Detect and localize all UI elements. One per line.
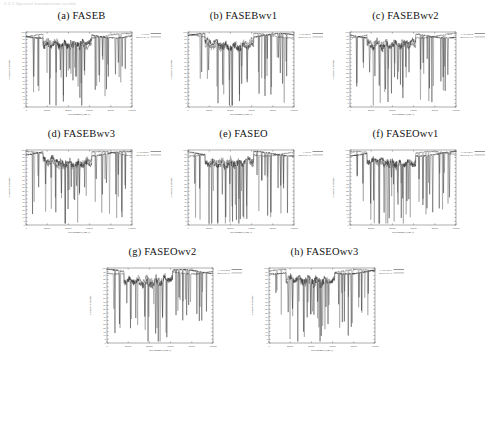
y-tick-label: 90 xyxy=(265,274,268,277)
x-tick-label: 100000 xyxy=(209,345,217,348)
y-tick-label: 80 xyxy=(346,46,349,49)
y-tick-label: 45 xyxy=(103,308,106,311)
x-tick-label: 60000 xyxy=(86,109,93,112)
y-tick-label: 55 xyxy=(265,301,268,304)
legend-label: MODTRAN xyxy=(298,154,311,157)
spectral-plot: 0510152025303540455055606570758085909510… xyxy=(326,141,486,246)
y-tick-label: 40 xyxy=(346,76,349,79)
y-tick-label: 50 xyxy=(184,186,187,189)
x-tick-label: 20000 xyxy=(44,109,51,112)
y-tick-label: 75 xyxy=(265,286,268,289)
y-tick-label: 95 xyxy=(346,35,349,38)
y-tick-label: 25 xyxy=(184,205,187,208)
y-tick-label: 20 xyxy=(184,209,187,212)
y-tick-label: 95 xyxy=(22,35,25,38)
x-tick-label: 100000 xyxy=(128,227,136,230)
x-tick-label: 40000 xyxy=(227,109,234,112)
y-tick-label: 90 xyxy=(346,156,349,159)
plot-container: 0510152025303540455055606570758085909510… xyxy=(245,259,405,364)
y-tick-label: 40 xyxy=(184,76,187,79)
y-tick-label: 50 xyxy=(22,68,25,71)
panel-b: (b) FASEBwv1 051015202530354045505560657… xyxy=(163,10,325,128)
y-tick-label: 10 xyxy=(103,334,106,337)
y-tick-label: 95 xyxy=(265,271,268,274)
legend-label: MODTRAN xyxy=(136,154,149,157)
y-tick-label: 80 xyxy=(103,282,106,285)
y-tick-label: 5 xyxy=(104,338,106,341)
y-tick-label: 100 xyxy=(21,149,26,152)
y-tick-label: 5 xyxy=(185,102,187,105)
x-tick-label: 60000 xyxy=(167,345,174,348)
y-tick-label: 60 xyxy=(22,179,25,182)
y-tick-label: 30 xyxy=(346,201,349,204)
y-tick-label: 10 xyxy=(346,98,349,101)
y-tick-label: 50 xyxy=(184,68,187,71)
y-tick-label: 55 xyxy=(22,65,25,68)
y-tick-label: 40 xyxy=(346,194,349,197)
y-tick-label: 85 xyxy=(184,42,187,45)
x-tick-label: 40000 xyxy=(65,227,72,230)
y-tick-label: 50 xyxy=(346,186,349,189)
x-tick-label: 0 xyxy=(349,227,351,230)
y-tick-label: 65 xyxy=(22,57,25,60)
y-tick-label: 5 xyxy=(347,220,349,223)
x-tick-label: 40000 xyxy=(146,345,153,348)
y-tick-label: 10 xyxy=(22,216,25,219)
y-tick-label: 35 xyxy=(184,198,187,201)
x-tick-label: 20000 xyxy=(287,345,294,348)
y-tick-label: 95 xyxy=(184,35,187,38)
y-tick-label: 15 xyxy=(184,95,187,98)
y-tick-label: 40 xyxy=(184,194,187,197)
y-tick-label: 65 xyxy=(22,175,25,178)
x-tick-label: 0 xyxy=(25,227,27,230)
panel-caption: (b) FASEBwv1 xyxy=(210,10,277,21)
x-tick-label: 100000 xyxy=(452,109,460,112)
y-tick-label: 15 xyxy=(346,95,349,98)
y-tick-label: 15 xyxy=(346,213,349,216)
y-tick-label: 85 xyxy=(103,278,106,281)
x-axis-label: wavenumber (cm-1) xyxy=(230,231,252,234)
x-tick-label: 0 xyxy=(106,345,108,348)
y-tick-label: 10 xyxy=(184,216,187,219)
y-tick-label: 85 xyxy=(346,42,349,45)
x-axis-label: wavenumber (cm-1) xyxy=(149,349,171,352)
figure-row-1: (a) FASEB 051015202530354045505560657075… xyxy=(0,10,487,128)
x-tick-label: 100000 xyxy=(128,109,136,112)
y-tick-label: 95 xyxy=(184,153,187,156)
legend-label: MODTRAN xyxy=(460,154,473,157)
y-tick-label: 100 xyxy=(345,31,350,34)
y-tick-label: 25 xyxy=(346,87,349,90)
y-tick-label: 75 xyxy=(346,168,349,171)
y-axis-label: % correct identified xyxy=(8,177,11,198)
y-tick-label: 85 xyxy=(22,160,25,163)
y-tick-label: 55 xyxy=(184,65,187,68)
y-tick-label: 40 xyxy=(103,312,106,315)
y-tick-label: 100 xyxy=(345,149,350,152)
y-tick-label: 75 xyxy=(346,50,349,53)
y-tick-label: 5 xyxy=(23,220,25,223)
y-tick-label: 30 xyxy=(22,83,25,86)
y-tick-label: 5 xyxy=(266,338,268,341)
x-axis-label: wavenumber (cm-1) xyxy=(311,349,333,352)
x-tick-label: 80000 xyxy=(431,227,438,230)
y-tick-label: 20 xyxy=(184,91,187,94)
x-tick-label: 80000 xyxy=(269,227,276,230)
y-tick-label: 60 xyxy=(265,297,268,300)
y-tick-label: 35 xyxy=(346,80,349,83)
spectral-plot: 0510152025303540455055606570758085909510… xyxy=(2,23,162,128)
y-tick-label: 55 xyxy=(103,301,106,304)
y-tick-label: 5 xyxy=(185,220,187,223)
y-tick-label: 5 xyxy=(23,102,25,105)
x-tick-label: 40000 xyxy=(389,109,396,112)
y-tick-label: 80 xyxy=(346,164,349,167)
x-tick-label: 20000 xyxy=(206,227,213,230)
plot-container: 0510152025303540455055606570758085909510… xyxy=(164,23,324,128)
y-tick-label: 65 xyxy=(346,175,349,178)
plot-container: 0510152025303540455055606570758085909510… xyxy=(2,23,162,128)
spectral-plot: 0510152025303540455055606570758085909510… xyxy=(245,259,405,364)
series-line-modtran xyxy=(269,269,375,339)
y-tick-label: 70 xyxy=(22,53,25,56)
x-tick-label: 40000 xyxy=(65,109,72,112)
x-tick-label: 100000 xyxy=(371,345,379,348)
y-tick-label: 65 xyxy=(184,175,187,178)
